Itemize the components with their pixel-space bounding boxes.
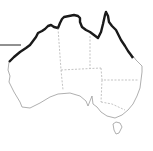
border-qld-sa [101,68,139,80]
northern-coastline-highlight [9,12,133,62]
border-nsw-vic [101,102,125,110]
map-canvas [0,0,153,151]
australia-map [0,0,153,151]
tasmania [113,122,122,134]
border-wa [58,28,63,90]
border-sa-nsw [101,80,102,102]
border-nt-sa [61,68,101,70]
